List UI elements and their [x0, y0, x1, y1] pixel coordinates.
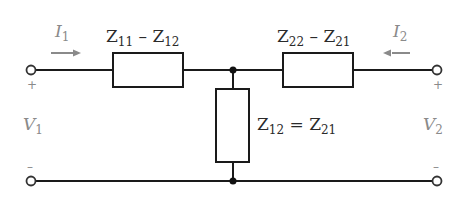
label-current-i1: I1	[54, 21, 69, 44]
terminal-left-top	[27, 66, 36, 75]
arrow-left-icon	[383, 50, 391, 57]
impedance-left-box	[113, 53, 183, 87]
sign-minus-left: –	[27, 160, 33, 174]
sign-plus-right: +	[433, 78, 443, 92]
label-z11-minus-z12: Z11 – Z12	[106, 26, 180, 49]
label-z12-equals-z21: Z12 = Z21	[257, 114, 336, 137]
label-voltage-v1: V1	[23, 114, 43, 137]
label-z22-minus-z21: Z22 – Z21	[277, 26, 351, 49]
two-port-circuit-diagram: Z11 – Z12 Z22 – Z21 Z12 = Z21 I1 I2 + V1…	[0, 0, 464, 203]
terminal-right-bottom	[433, 177, 442, 186]
terminal-left-bottom	[27, 177, 36, 186]
junction-node-top	[230, 67, 237, 74]
impedance-right-box	[283, 53, 353, 87]
junction-node-bottom	[230, 178, 237, 185]
impedance-shunt-box	[216, 89, 249, 162]
label-current-i2: I2	[392, 21, 407, 44]
sign-plus-left: +	[27, 78, 37, 92]
terminal-right-top	[433, 66, 442, 75]
sign-minus-right: –	[433, 160, 439, 174]
label-voltage-v2: V2	[423, 114, 443, 137]
arrow-right-icon	[73, 50, 81, 57]
